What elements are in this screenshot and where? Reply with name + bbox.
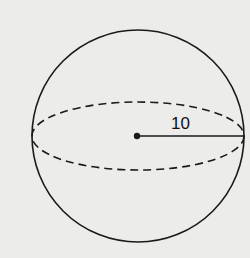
sphere-diagram: 10 [0, 0, 250, 258]
center-point [134, 133, 140, 139]
radius-label: 10 [171, 114, 190, 133]
sphere-figure: 10 [0, 0, 250, 258]
